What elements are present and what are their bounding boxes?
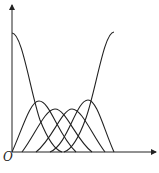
basis-function-diagram: [0, 0, 159, 173]
curves: [12, 32, 114, 152]
axes: [12, 5, 156, 152]
origin-label: O: [3, 150, 13, 164]
curve-basis-4: [50, 100, 114, 152]
